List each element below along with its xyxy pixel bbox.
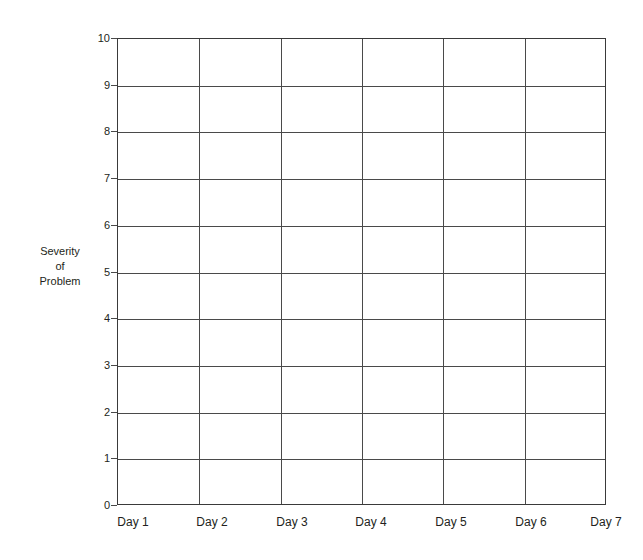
y-tick-label-6: 6	[80, 219, 110, 230]
y-tick-label-1: 1	[80, 453, 110, 464]
y-tick-label-5: 5	[80, 266, 110, 277]
x-tick-label-day-5: Day 5	[411, 515, 491, 529]
y-tick-label-7: 7	[80, 173, 110, 184]
gridline-vertical-day-3	[281, 39, 282, 504]
severity-chart: Severity of Problem 10 9 8 7 6 5 4 3 2 1…	[0, 0, 643, 560]
x-tick-label-day-4: Day 4	[331, 515, 411, 529]
gridline-vertical-day-5	[443, 39, 444, 504]
y-tick-label-10: 10	[80, 33, 110, 44]
x-tick-label-day-6: Day 6	[491, 515, 571, 529]
x-tick-label-day-1: Day 1	[93, 515, 173, 529]
gridline-vertical-day-6	[525, 39, 526, 504]
x-tick-label-day-2: Day 2	[172, 515, 252, 529]
x-tick-label-day-3: Day 3	[252, 515, 332, 529]
y-tick-label-9: 9	[80, 79, 110, 90]
gridline-vertical-day-2	[199, 39, 200, 504]
y-tick-label-2: 2	[80, 406, 110, 417]
y-tick-mark-0	[111, 505, 117, 506]
y-tick-label-8: 8	[80, 126, 110, 137]
gridline-vertical-day-4	[362, 39, 363, 504]
y-axis-tick-labels: 10 9 8 7 6 5 4 3 2 1 0	[78, 0, 110, 560]
y-tick-label-0: 0	[80, 500, 110, 511]
x-tick-label-day-7: Day 7	[566, 515, 643, 529]
y-tick-label-4: 4	[80, 313, 110, 324]
y-tick-label-3: 3	[80, 359, 110, 370]
x-axis-tick-labels: Day 1 Day 2 Day 3 Day 4 Day 5 Day 6 Day …	[0, 515, 643, 535]
plot-area	[117, 38, 606, 505]
